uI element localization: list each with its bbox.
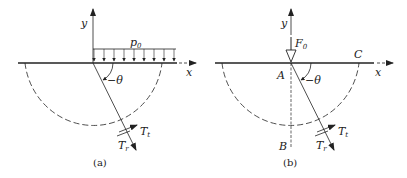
angle-label: −θ xyxy=(305,74,321,87)
angle-label: −θ xyxy=(107,74,123,87)
semicircle-boundary xyxy=(222,63,359,125)
tangential-stress-label: Tt xyxy=(338,125,348,139)
load-label-p0: p0 xyxy=(130,36,142,50)
y-axis-label: y xyxy=(280,17,288,30)
caption-a: (a) xyxy=(93,157,107,168)
point-b-label: B xyxy=(278,140,287,153)
x-axis-label: x xyxy=(375,66,382,79)
x-axis-label: x xyxy=(186,66,193,79)
radial-stress-label: Tr xyxy=(316,139,327,153)
force-f0-arrowhead xyxy=(286,50,296,62)
point-a-label: A xyxy=(276,69,285,82)
distributed-load-p0 xyxy=(93,49,176,61)
tangential-stress-arrow xyxy=(317,125,335,132)
force-label-f0: F0 xyxy=(294,37,308,51)
tangential-stress-label: Tt xyxy=(140,125,150,139)
caption-b: (b) xyxy=(283,157,297,168)
panel-b: x y F0 −θ Tt Tr A B C (b) xyxy=(215,9,393,168)
diagram-canvas: x y p0 −θ Tt Tr (a) xyxy=(0,0,407,178)
tangential-stress-arrow xyxy=(119,125,137,132)
semicircle-boundary xyxy=(25,63,162,125)
point-c-label: C xyxy=(354,48,363,61)
y-axis-label: y xyxy=(80,17,88,30)
radial-stress-label: Tr xyxy=(118,139,129,153)
panel-a: x y p0 −θ Tt Tr (a) xyxy=(18,9,196,168)
